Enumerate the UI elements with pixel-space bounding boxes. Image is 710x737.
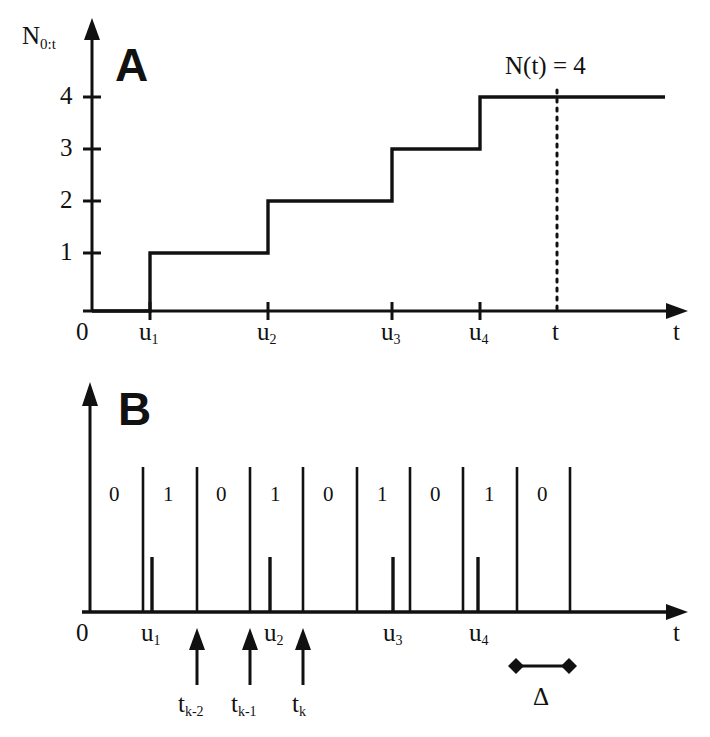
panel-b-letter: B (118, 382, 150, 436)
panel-b-y-axis (82, 382, 98, 612)
panel-a-xtick-origin: 0 (76, 318, 89, 346)
evaluation-time-dotted-line (549, 90, 557, 320)
panel-a-ytick-2: 2 (60, 186, 73, 214)
panel-a-xtick-t: t (552, 318, 559, 346)
panel-a-xtick-u2: u2 (257, 318, 277, 348)
panel-b-xtick-u3: u3 (383, 619, 403, 649)
panel-a-ytick-4: 4 (60, 82, 73, 110)
panel-b-xtick-origin: 0 (76, 619, 89, 647)
panel-b-edge-label-tk: tk (292, 690, 306, 720)
counting-process-step-curve (92, 97, 665, 311)
panel-b-spikes (152, 557, 478, 612)
figure-canvas: N0:t A 4 3 2 1 0 u1 u2 u3 u4 t t N(t) = … (0, 0, 710, 737)
panel-b-bin-edges (143, 467, 570, 612)
panel-b-xtick-u2: u2 (264, 619, 284, 649)
panel-a-xtick-u4: u4 (469, 318, 489, 348)
panel-b-bin-value-4: 0 (323, 482, 334, 507)
panel-a-y-axis (83, 18, 101, 311)
panel-b-plot (0, 360, 710, 737)
panel-b-delta-label: Δ (533, 683, 549, 711)
panel-b-bin-edge-arrows (189, 628, 311, 685)
panel-a-annotation-nt: N(t) = 4 (505, 52, 586, 80)
panel-b-delta-interval (508, 658, 577, 674)
panel-a-plot (0, 0, 710, 360)
panel-b-x-axis-title: t (673, 619, 680, 647)
panel-b-bin-value-8: 0 (537, 482, 548, 507)
panel-a-xtick-u3: u3 (381, 318, 401, 348)
panel-b-bin-value-1: 1 (163, 482, 174, 507)
panel-b-bin-value-6: 0 (430, 482, 441, 507)
panel-b-x-axis (82, 604, 688, 620)
panel-b-bin-value-5: 1 (377, 482, 388, 507)
panel-a-y-axis-title: N0:t (22, 22, 56, 53)
panel-b-bin-value-0: 0 (109, 482, 120, 507)
panel-b-edge-label-tk-1: tk-1 (231, 690, 257, 720)
panel-b-bin-value-3: 1 (270, 482, 281, 507)
panel-b-bin-value-7: 1 (484, 482, 495, 507)
panel-a-letter: A (115, 38, 147, 92)
panel-b-bin-value-2: 0 (216, 482, 227, 507)
panel-b-xtick-u4: u4 (469, 619, 489, 649)
panel-a-ytick-3: 3 (60, 134, 73, 162)
panel-a-xtick-u1: u1 (139, 318, 159, 348)
panel-b-xtick-u1: u1 (141, 619, 161, 649)
panel-a-x-axis-title: t (673, 318, 680, 346)
panel-b-edge-label-tk-2: tk-2 (178, 690, 204, 720)
panel-a-ytick-1: 1 (60, 238, 73, 266)
